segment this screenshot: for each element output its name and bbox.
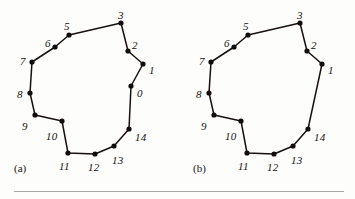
vertex-dot-a-3 [118,20,123,25]
vertex-dot-a-7 [29,59,34,64]
vertex-dot-a-5 [66,32,71,37]
vertex-label-a-13: 13 [112,155,123,166]
vertex-label-a-10: 10 [46,131,57,142]
vertex-label-a-11: 11 [59,161,70,172]
vertex-label-b-10: 10 [225,131,236,142]
horizontal-rule [14,191,344,192]
vertex-label-b-8: 8 [196,89,202,100]
vertex-label-b-12: 12 [267,162,278,173]
vertex-label-a-3: 3 [118,10,124,21]
vertex-dot-b-8 [206,90,211,95]
vertex-dot-a-10 [59,118,64,123]
vertex-label-a-14: 14 [135,132,146,143]
vertex-dot-b-11 [244,150,249,155]
vertex-label-a-5: 5 [64,21,70,32]
vertex-label-a-6: 6 [45,38,51,49]
vertex-label-a-12: 12 [88,162,99,173]
vertex-label-b-7: 7 [199,56,205,67]
vertex-label-b-14: 14 [314,132,325,143]
vertex-dot-b-10 [238,118,243,123]
vertex-label-b-6: 6 [224,38,230,49]
vertex-dot-a-13 [111,143,116,148]
vertex-dot-b-2 [304,48,309,53]
panel-caption-b: (b) [193,163,206,174]
vertex-label-b-1: 1 [328,65,334,76]
vertex-dot-b-5 [245,32,250,37]
vertex-dot-b-1 [319,61,324,66]
vertex-dot-b-3 [297,20,302,25]
vertex-dot-a-2 [125,48,130,53]
vertex-label-b-9: 9 [201,121,207,132]
vertex-label-a-9: 9 [22,121,28,132]
vertex-dot-a-9 [32,112,37,117]
vertex-dot-a-0 [128,83,133,88]
vertex-label-b-2: 2 [311,40,317,51]
vertex-dot-b-13 [290,143,295,148]
vertex-dot-a-6 [52,44,57,49]
vertex-dot-b-6 [231,44,236,49]
vertex-label-a-0: 0 [137,88,143,99]
figure-canvas: 0123567891011121314 (a) 1235678910111213… [0,0,355,199]
vertex-label-a-7: 7 [20,56,26,67]
vertex-dot-a-12 [92,151,97,156]
vertex-label-a-1: 1 [149,65,155,76]
vertex-dot-b-14 [305,126,310,131]
vertex-dot-a-11 [65,150,70,155]
vertex-label-b-13: 13 [291,155,302,166]
vertex-dot-b-12 [271,151,276,156]
vertex-dot-b-7 [208,59,213,64]
vertex-label-b-11: 11 [238,161,249,172]
vertex-label-a-8: 8 [17,89,23,100]
vertex-label-a-2: 2 [132,40,138,51]
polygon-panel-a [0,0,355,199]
vertex-dot-b-9 [211,112,216,117]
vertex-dot-a-1 [140,61,145,66]
vertex-label-b-3: 3 [297,10,303,21]
panel-caption-a: (a) [14,163,26,174]
vertex-label-b-5: 5 [243,21,249,32]
vertex-dot-a-8 [27,90,32,95]
vertex-dot-a-14 [126,126,131,131]
